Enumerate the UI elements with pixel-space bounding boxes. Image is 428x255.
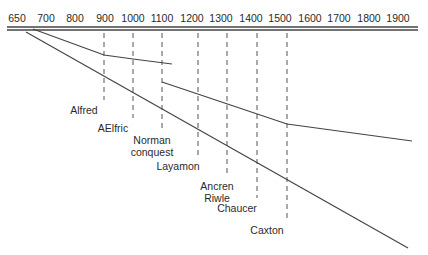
event-label: AElfric xyxy=(98,122,128,134)
event-label: AncrenRiwle xyxy=(200,180,233,204)
event-label: Caxton xyxy=(250,224,283,236)
year-tick-label: 700 xyxy=(37,12,55,24)
event-label: Chaucer xyxy=(217,202,257,214)
year-tick-label: 1100 xyxy=(151,12,174,24)
language-timeline-diagram: 6507008009001000110012001300140015001600… xyxy=(0,0,428,255)
year-tick-label: 1700 xyxy=(327,12,350,24)
year-tick-label: 1300 xyxy=(209,12,232,24)
year-tick-label: 900 xyxy=(96,12,114,24)
event-label: Layamon xyxy=(156,160,199,172)
upper-branch-line xyxy=(33,29,172,64)
year-tick-label: 1600 xyxy=(298,12,321,24)
year-tick-label: 650 xyxy=(8,12,26,24)
event-label: Normanconquest xyxy=(131,134,174,158)
year-tick-label: 800 xyxy=(66,12,84,24)
year-tick-label: 1200 xyxy=(180,12,203,24)
year-tick-label: 1000 xyxy=(121,12,144,24)
year-tick-label: 1900 xyxy=(386,12,409,24)
year-tick-label: 1500 xyxy=(268,12,291,24)
timeline-lines xyxy=(0,0,428,255)
year-tick-label: 1800 xyxy=(357,12,380,24)
main-descent-line xyxy=(26,32,408,248)
event-label: Alfred xyxy=(70,104,97,116)
year-tick-label: 1400 xyxy=(239,12,262,24)
